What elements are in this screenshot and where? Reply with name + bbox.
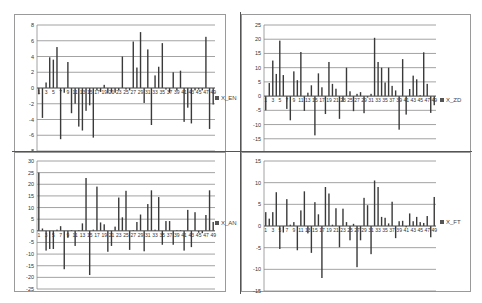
chart-panel-x-an: -25-20-15-10-505101520253013579111315171… — [14, 152, 226, 292]
svg-text:19: 19 — [101, 232, 107, 238]
svg-text:27: 27 — [130, 89, 136, 95]
legend-swatch-icon — [215, 96, 219, 100]
svg-text:-5: -5 — [29, 239, 34, 245]
svg-text:43: 43 — [189, 89, 195, 95]
svg-text:19: 19 — [101, 89, 107, 95]
svg-text:3: 3 — [271, 97, 274, 103]
svg-text:35: 35 — [160, 232, 166, 238]
svg-text:37: 37 — [167, 89, 173, 95]
svg-text:7: 7 — [59, 232, 62, 238]
svg-text:-10: -10 — [253, 122, 261, 128]
legend-label: X_AN — [221, 220, 237, 226]
svg-text:9: 9 — [66, 89, 69, 95]
svg-text:27: 27 — [130, 232, 136, 238]
svg-text:-4: -4 — [29, 117, 34, 123]
svg-text:39: 39 — [396, 227, 402, 233]
svg-text:19: 19 — [326, 97, 332, 103]
bar-chart-x-an: -25-20-15-10-505101520253013579111315171… — [15, 153, 227, 293]
svg-text:41: 41 — [403, 97, 409, 103]
svg-text:39: 39 — [396, 97, 402, 103]
svg-text:9: 9 — [66, 232, 69, 238]
svg-text:15: 15 — [255, 158, 261, 164]
svg-text:43: 43 — [189, 232, 195, 238]
bar-chart-x-ft: -15-10-505101513579111315171921232527293… — [242, 153, 472, 293]
svg-text:1: 1 — [37, 89, 40, 95]
svg-text:1: 1 — [264, 97, 267, 103]
svg-text:6: 6 — [31, 38, 34, 44]
svg-text:7: 7 — [285, 227, 288, 233]
svg-text:3: 3 — [45, 89, 48, 95]
svg-text:-15: -15 — [26, 263, 34, 269]
svg-text:-10: -10 — [253, 266, 261, 272]
svg-text:27: 27 — [354, 227, 360, 233]
svg-text:17: 17 — [319, 227, 325, 233]
legend-swatch-icon — [440, 98, 444, 102]
legend-x-en: X_EN — [215, 95, 237, 101]
svg-text:17: 17 — [94, 232, 100, 238]
svg-text:29: 29 — [361, 227, 367, 233]
svg-text:13: 13 — [305, 97, 311, 103]
svg-text:1: 1 — [264, 227, 267, 233]
svg-text:25: 25 — [28, 170, 34, 176]
svg-text:23: 23 — [116, 232, 122, 238]
svg-text:37: 37 — [389, 227, 395, 233]
svg-text:33: 33 — [152, 89, 158, 95]
svg-text:8: 8 — [31, 22, 34, 28]
svg-text:11: 11 — [73, 232, 78, 238]
svg-text:9: 9 — [292, 97, 295, 103]
svg-text:25: 25 — [347, 97, 353, 103]
svg-text:33: 33 — [375, 227, 381, 233]
svg-text:5: 5 — [52, 89, 55, 95]
svg-text:15: 15 — [312, 227, 318, 233]
svg-text:41: 41 — [181, 232, 187, 238]
vertical-divider — [240, 12, 241, 294]
svg-text:29: 29 — [361, 97, 367, 103]
svg-text:17: 17 — [94, 89, 100, 95]
svg-text:43: 43 — [410, 97, 416, 103]
legend-x-zd: X_ZD — [440, 97, 461, 103]
svg-text:37: 37 — [389, 97, 395, 103]
svg-text:1: 1 — [37, 232, 40, 238]
svg-text:49: 49 — [210, 232, 216, 238]
svg-text:5: 5 — [258, 79, 261, 85]
svg-text:35: 35 — [160, 89, 166, 95]
legend-label: X_ZD — [446, 97, 461, 103]
svg-text:27: 27 — [354, 97, 360, 103]
svg-text:21: 21 — [333, 97, 339, 103]
legend-x-an: X_AN — [215, 220, 237, 226]
svg-text:41: 41 — [403, 227, 409, 233]
svg-text:7: 7 — [59, 89, 62, 95]
svg-text:41: 41 — [181, 89, 187, 95]
svg-text:39: 39 — [174, 89, 180, 95]
svg-text:39: 39 — [174, 232, 180, 238]
svg-text:45: 45 — [196, 232, 202, 238]
horizontal-divider — [12, 151, 472, 152]
svg-text:11: 11 — [73, 89, 78, 95]
svg-text:4: 4 — [31, 54, 34, 60]
svg-text:31: 31 — [145, 89, 151, 95]
svg-text:30: 30 — [28, 158, 34, 164]
svg-text:3: 3 — [271, 227, 274, 233]
svg-text:49: 49 — [431, 227, 437, 233]
svg-text:5: 5 — [258, 201, 261, 207]
svg-text:10: 10 — [28, 205, 34, 211]
svg-text:45: 45 — [417, 97, 423, 103]
svg-text:21: 21 — [109, 89, 115, 95]
svg-text:-25: -25 — [26, 286, 34, 292]
svg-text:5: 5 — [52, 232, 55, 238]
svg-text:29: 29 — [138, 232, 144, 238]
svg-text:23: 23 — [116, 89, 122, 95]
svg-text:33: 33 — [375, 97, 381, 103]
svg-text:-6: -6 — [29, 132, 34, 138]
svg-text:43: 43 — [410, 227, 416, 233]
svg-text:23: 23 — [340, 227, 346, 233]
svg-text:-5: -5 — [256, 245, 261, 251]
legend-swatch-icon — [215, 221, 219, 225]
svg-text:47: 47 — [424, 97, 430, 103]
svg-text:35: 35 — [382, 227, 388, 233]
svg-text:5: 5 — [278, 227, 281, 233]
svg-text:37: 37 — [167, 232, 173, 238]
svg-text:11: 11 — [298, 227, 303, 233]
svg-text:15: 15 — [255, 50, 261, 56]
svg-text:21: 21 — [333, 227, 339, 233]
